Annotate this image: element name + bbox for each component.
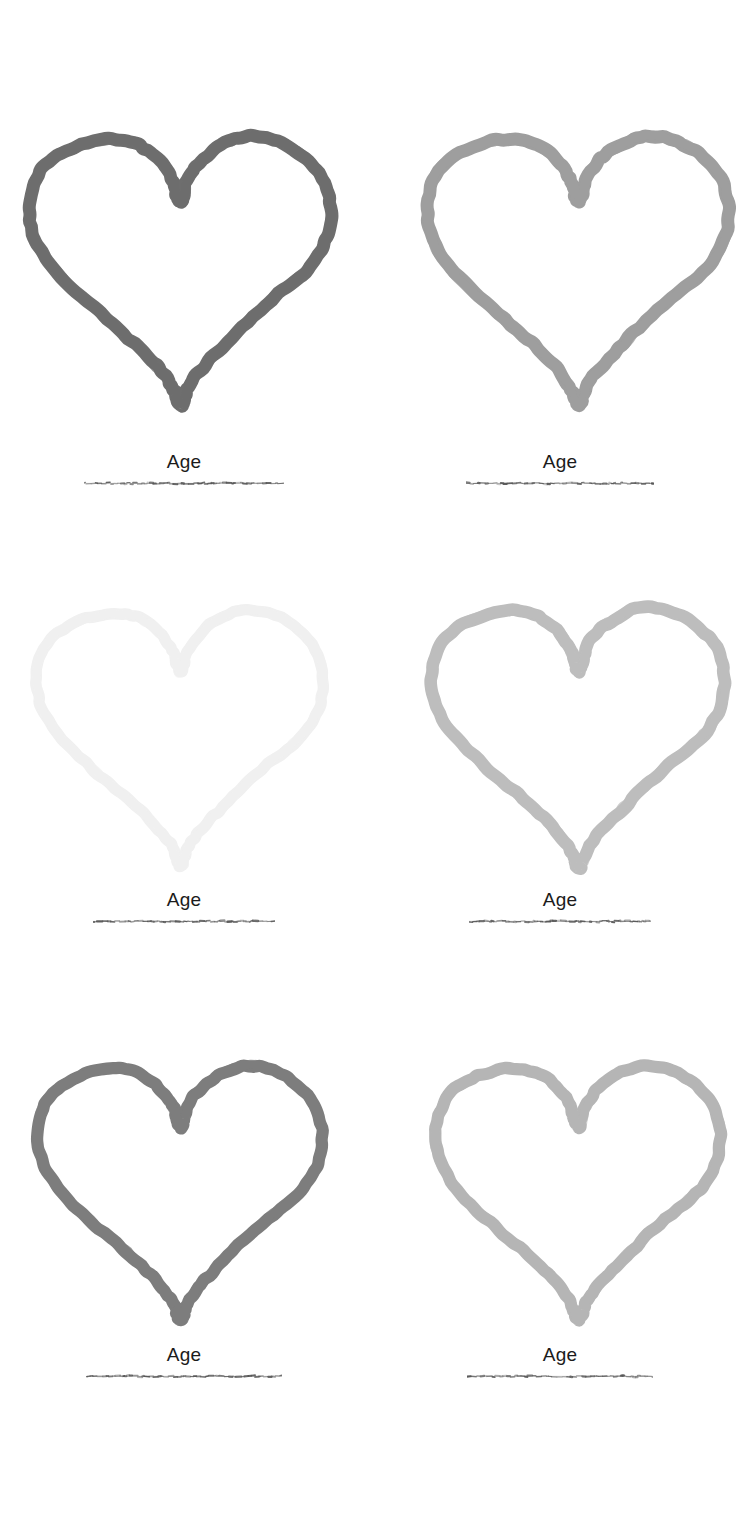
label-block-bottom-left: Age: [0, 1345, 368, 1380]
panel-label: Age: [543, 1345, 577, 1373]
scribble-underline-icon: [467, 1373, 653, 1380]
scribble-underline-icon: [86, 1373, 282, 1380]
heart-bottom-left-wrapper: [0, 1000, 364, 1350]
heart-outline-icon: [406, 1005, 736, 1345]
heart-panel-grid: Age Age Age Age: [0, 0, 736, 1519]
panel-bottom-right: Age: [368, 0, 736, 1440]
panel-bottom-left: Age: [0, 0, 368, 1440]
heart-bottom-right-wrapper: [394, 1000, 736, 1350]
panel-label: Age: [167, 1345, 201, 1373]
label-block-bottom-right: Age: [376, 1345, 736, 1380]
heart-outline-icon: [8, 1005, 352, 1345]
